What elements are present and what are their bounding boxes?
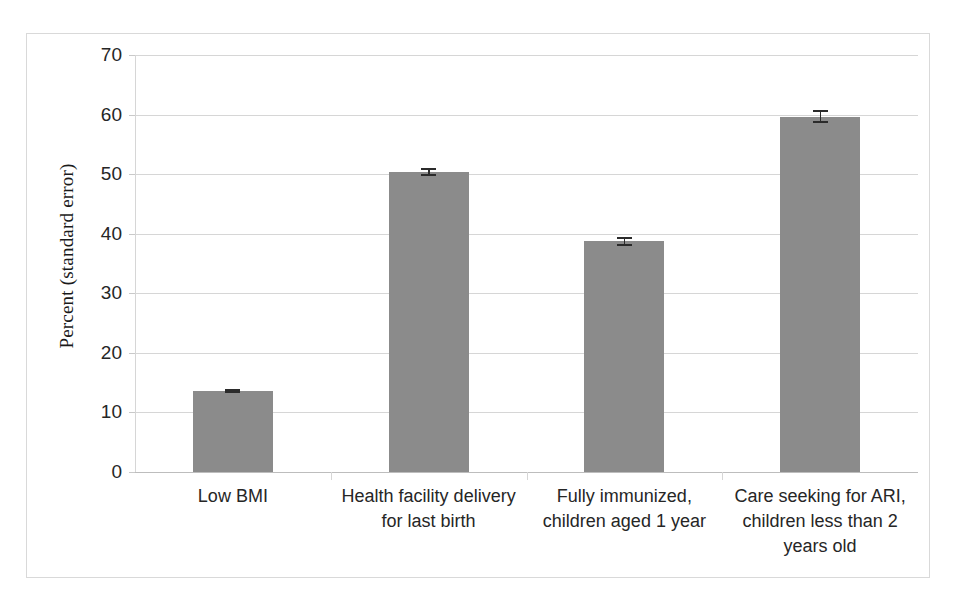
x-axis-category-label: Care seeking for ARI,children less than … — [722, 484, 918, 558]
y-tick-label-30: 30 — [62, 283, 122, 302]
error-bar — [813, 110, 828, 123]
error-bar-cap-bottom — [421, 174, 436, 176]
bar[interactable] — [389, 172, 469, 472]
y-tick-20 — [129, 353, 135, 354]
x-axis-category-label-line: Low BMI — [135, 484, 331, 509]
x-axis-category-label-line: children aged 1 year — [527, 509, 723, 534]
x-axis-category-label-line: Health facility delivery — [331, 484, 527, 509]
y-tick-50 — [129, 174, 135, 175]
error-bar — [617, 237, 632, 247]
y-tick-0 — [129, 472, 135, 473]
gridline-60 — [135, 115, 918, 116]
bar[interactable] — [780, 117, 860, 472]
x-axis-category-label: Health facility deliveryfor last birth — [331, 484, 527, 534]
y-tick-label-40: 40 — [62, 224, 122, 243]
x-axis-category-label-line: years old — [722, 534, 918, 559]
x-axis-category-label: Fully immunized,children aged 1 year — [527, 484, 723, 534]
gridline-70 — [135, 55, 918, 56]
error-bar-cap-bottom — [813, 121, 828, 123]
y-tick-30 — [129, 293, 135, 294]
y-tick-label-70: 70 — [62, 45, 122, 64]
chart-figure: Percent (standard error) 706050403020100… — [0, 0, 963, 604]
x-axis-category-label-line: for last birth — [331, 509, 527, 534]
y-tick-10 — [129, 412, 135, 413]
x-axis-category-separator — [331, 472, 332, 480]
y-tick-label-0: 0 — [62, 462, 122, 481]
bar[interactable] — [193, 391, 273, 472]
y-tick-70 — [129, 55, 135, 56]
y-tick-label-60: 60 — [62, 105, 122, 124]
x-axis-category-label-line: Fully immunized, — [527, 484, 723, 509]
x-axis-category-label-line: children less than 2 — [722, 509, 918, 534]
y-axis-tick-labels: 706050403020100 — [56, 0, 122, 604]
y-tick-label-20: 20 — [62, 343, 122, 362]
y-tick-40 — [129, 234, 135, 235]
error-bar-cap-bottom — [225, 391, 240, 393]
x-axis-category-separator — [527, 472, 528, 480]
error-bar — [421, 168, 436, 176]
x-axis-category-label-line: Care seeking for ARI, — [722, 484, 918, 509]
x-axis-category-separator — [722, 472, 723, 480]
y-tick-label-10: 10 — [62, 402, 122, 421]
y-tick-60 — [129, 115, 135, 116]
x-axis-category-label: Low BMI — [135, 484, 331, 509]
y-tick-label-50: 50 — [62, 164, 122, 183]
bar[interactable] — [584, 241, 664, 472]
error-bar — [225, 389, 240, 394]
error-bar-cap-bottom — [617, 244, 632, 246]
